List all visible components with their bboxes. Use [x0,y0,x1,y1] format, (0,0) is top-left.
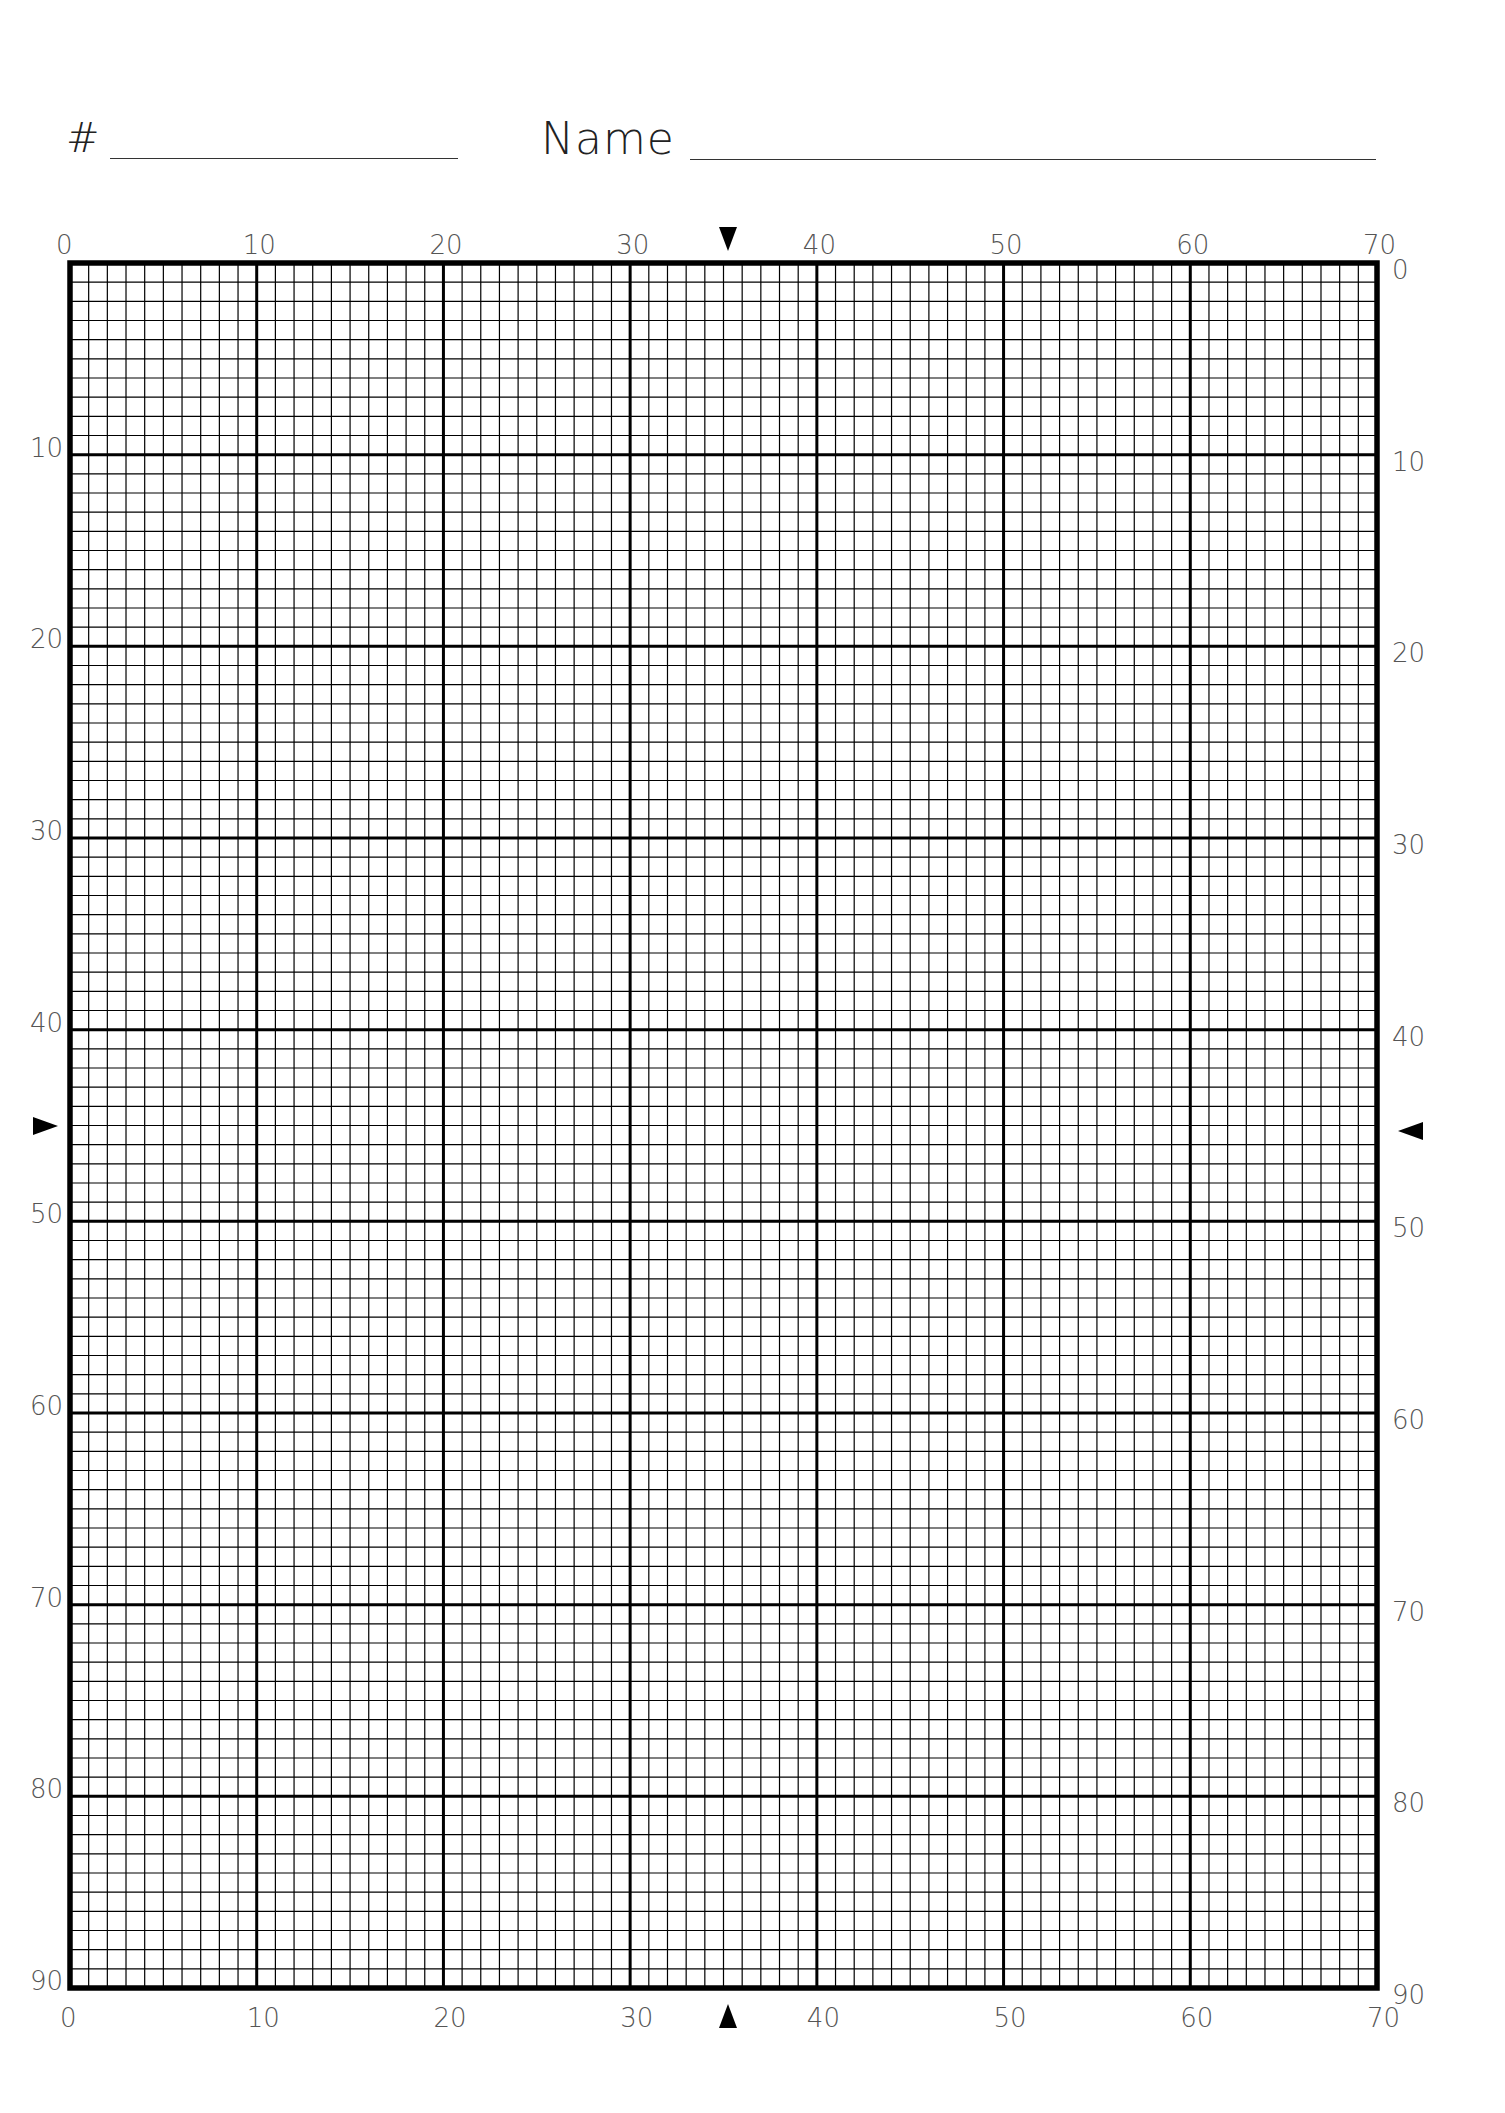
graph-grid [0,0,1505,2113]
left-axis-label: 10 [30,435,63,461]
left-axis-label: 60 [30,1393,63,1419]
bottom-axis-label: 20 [433,2005,466,2031]
right-axis-label: 90 [1392,1982,1425,2008]
top-axis-label: 10 [243,232,276,258]
top-axis-label: 20 [429,232,462,258]
bottom-axis-label: 0 [60,2005,77,2031]
top-axis-label: 50 [990,232,1023,258]
top-center-marker-icon [719,227,737,251]
right-axis-label: 80 [1392,1790,1425,1816]
left-axis-label: 20 [30,626,63,652]
right-axis-label: 50 [1392,1215,1425,1241]
minor-grid-lines [70,263,1377,1988]
left-center-marker-icon [33,1117,58,1135]
right-axis-label: 30 [1392,832,1425,858]
bottom-axis-label: 30 [620,2005,653,2031]
right-center-marker-icon [1398,1122,1423,1140]
right-axis-label: 70 [1392,1599,1425,1625]
left-axis-label: 40 [30,1010,63,1036]
left-axis-label: 70 [30,1585,63,1611]
bottom-center-marker-icon [719,2004,737,2028]
right-axis-label: 40 [1392,1024,1425,1050]
top-axis-label: 40 [803,232,836,258]
right-axis-label: 0 [1392,257,1409,283]
top-axis-label: 30 [616,232,649,258]
left-axis-label: 50 [30,1201,63,1227]
right-axis-label: 60 [1392,1407,1425,1433]
right-axis-label: 20 [1392,640,1425,666]
bottom-axis-label: 40 [807,2005,840,2031]
top-axis-label: 0 [56,232,73,258]
right-axis-label: 10 [1392,449,1425,475]
bottom-axis-label: 10 [247,2005,280,2031]
bottom-axis-label: 50 [994,2005,1027,2031]
top-axis-label: 60 [1176,232,1209,258]
left-axis-label: 90 [30,1968,63,1994]
left-axis-label: 80 [30,1776,63,1802]
left-axis-label: 30 [30,818,63,844]
bottom-axis-label: 60 [1180,2005,1213,2031]
